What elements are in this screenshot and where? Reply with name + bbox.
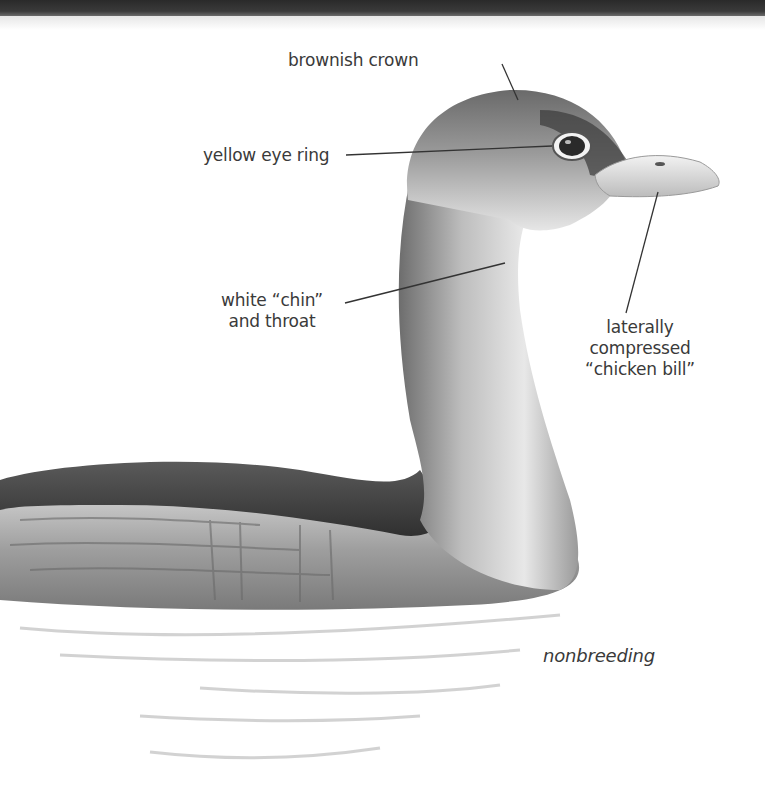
bill-leader — [626, 192, 658, 313]
label-yellow-eye-ring: yellow eye ring — [203, 145, 329, 166]
water-ripples — [20, 615, 560, 758]
label-chin-line1: white “chin” — [208, 290, 336, 311]
label-brownish-crown: brownish crown — [288, 50, 419, 71]
bird-eye — [553, 132, 591, 160]
label-white-chin: white “chin” and throat — [208, 290, 336, 332]
label-bill-line3: “chicken bill” — [560, 359, 720, 380]
caption-nonbreeding: nonbreeding — [543, 645, 655, 666]
label-bill-line1: laterally — [560, 317, 720, 338]
bird-neck — [399, 180, 578, 590]
label-bill-line2: compressed — [560, 338, 720, 359]
label-chin-line2: and throat — [208, 311, 336, 332]
label-chicken-bill: laterally compressed “chicken bill” — [560, 317, 720, 380]
bird-illustration — [0, 0, 765, 788]
